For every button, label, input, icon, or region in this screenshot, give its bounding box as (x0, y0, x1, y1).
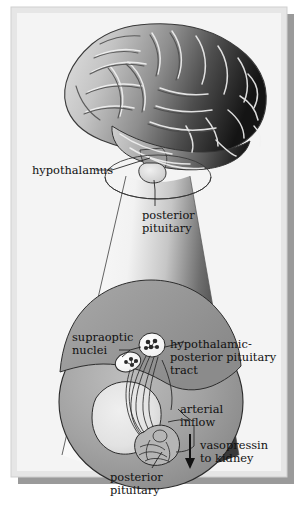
label-tract-line1: hypothalamic- (170, 337, 252, 351)
label-posterior-pituitary-lower-line2: pituitary (110, 483, 160, 497)
label-arterial-inflow-line1: arterial (180, 402, 223, 416)
anatomy-diagram: hypothalamus posterior pituitary supraop… (0, 0, 302, 507)
label-posterior-pituitary-upper-line2: pituitary (142, 221, 192, 235)
figure-container: hypothalamus posterior pituitary supraop… (0, 0, 302, 507)
label-hypothalamus: hypothalamus (32, 163, 113, 177)
label-tract-line2: posterior pituitary (170, 350, 277, 364)
label-vasopressin-line1: vasopressin (199, 438, 269, 452)
label-tract-line3: tract (170, 363, 198, 377)
label-posterior-pituitary-lower-line1: posterior (110, 470, 163, 484)
label-supraoptic-nuclei-line2: nuclei (72, 343, 107, 357)
label-supraoptic-nuclei-line1: supraoptic (72, 330, 133, 344)
label-arterial-inflow-line2: inflow (180, 415, 215, 429)
label-posterior-pituitary-upper-line1: posterior (142, 208, 195, 222)
label-vasopressin-line2: to kidney (200, 451, 254, 465)
pituitary-gland (139, 163, 166, 183)
supraoptic-nucleus-upper (139, 333, 165, 357)
